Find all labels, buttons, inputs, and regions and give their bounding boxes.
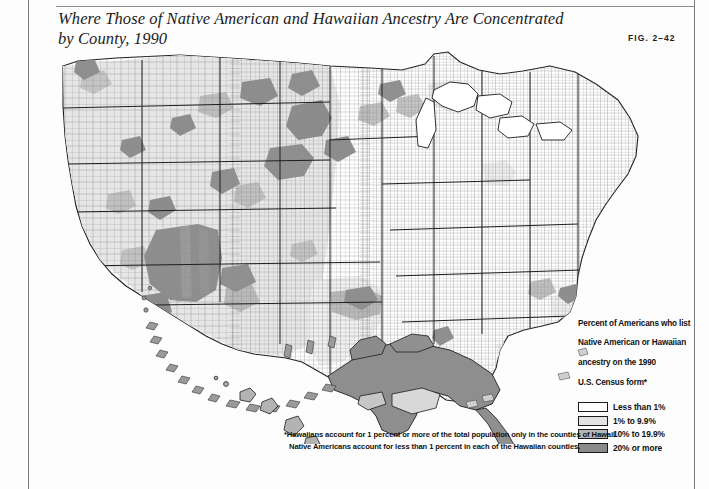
legend-item: Less than 1% xyxy=(578,401,694,414)
footnote-line-2: Native Americans account for less than 1… xyxy=(284,441,694,453)
footnote-line-1: *Hawaiians account for 1 percent or more… xyxy=(284,429,694,441)
map-footnote: *Hawaiians account for 1 percent or more… xyxy=(284,429,694,452)
page-rule-top xyxy=(56,6,694,7)
page-rule-right xyxy=(694,0,695,489)
legend-label-1-to-9: 1% to 9.9% xyxy=(613,416,656,426)
legend-swatch-less-than-1 xyxy=(578,402,608,412)
figure-title: Where Those of Native American and Hawai… xyxy=(58,9,618,49)
legend-heading-line-3: ancestry on the 1990 xyxy=(578,358,694,368)
figure-number-label: Fig. 2–42 xyxy=(628,33,676,43)
page-rule-left xyxy=(28,0,29,489)
legend-swatch-1-to-9 xyxy=(578,416,608,426)
legend-heading-line-1: Percent of Americans who list xyxy=(578,319,694,329)
figure-title-line-1: Where Those of Native American and Hawai… xyxy=(58,9,618,29)
legend-heading-line-4: U.S. Census form* xyxy=(578,378,694,388)
figure-page: Where Those of Native American and Hawai… xyxy=(0,0,709,489)
legend-heading: Percent of Americans who list Native Ame… xyxy=(578,309,694,397)
legend-heading-line-2: Native American or Hawaiian xyxy=(578,338,694,348)
legend-item: 1% to 9.9% xyxy=(578,415,694,428)
legend-label-less-than-1: Less than 1% xyxy=(613,402,665,412)
